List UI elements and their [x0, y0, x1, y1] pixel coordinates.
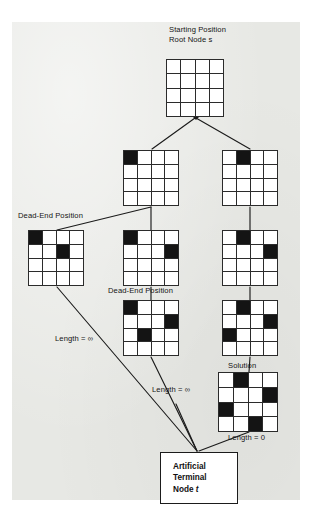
board-cell-empty [196, 89, 209, 102]
edge-label-length-infinity-left: Length = ∞ [55, 334, 93, 344]
board-cell-empty [251, 259, 264, 272]
board-cell-empty [124, 315, 137, 328]
board-cell-empty [70, 272, 83, 285]
board-cell-empty [263, 373, 277, 387]
board-cell-empty [138, 272, 151, 285]
board-cell-empty [167, 60, 180, 73]
board-cell-empty [29, 259, 42, 272]
board-cell-empty [251, 272, 264, 285]
board-cell-empty [165, 259, 178, 272]
board-cell-empty [237, 272, 250, 285]
edge-root-to-l2-right [196, 118, 250, 149]
board-cell-queen [249, 417, 263, 431]
board-cell-queen [264, 315, 277, 328]
board-cell-empty [264, 329, 277, 342]
board-cell-empty [138, 259, 151, 272]
board-cell-empty [219, 388, 233, 402]
board-cell-empty [251, 151, 264, 164]
board-cell-empty [165, 165, 178, 178]
board-cell-empty [167, 103, 180, 116]
board-cell-empty [237, 342, 250, 355]
board-cell-empty [264, 192, 277, 205]
board-cell-empty [165, 329, 178, 342]
board-cell-empty [237, 192, 250, 205]
board-cell-empty [138, 315, 151, 328]
board-cell-queen [264, 245, 277, 258]
board-cell-empty [223, 301, 236, 314]
board-cell-empty [237, 329, 250, 342]
board-cell-empty [264, 231, 277, 244]
board-cell-empty [167, 89, 180, 102]
board-cell-empty [152, 179, 165, 192]
root-board [166, 59, 224, 117]
board-cell-empty [251, 301, 264, 314]
board-cell-empty [124, 259, 137, 272]
board-cell-empty [223, 245, 236, 258]
board-cell-empty [152, 231, 165, 244]
board-cell-empty [152, 151, 165, 164]
board-cell-empty [237, 179, 250, 192]
board-cell-empty [124, 192, 137, 205]
board-cell-queen [219, 403, 233, 417]
board-cell-empty [165, 192, 178, 205]
board-cell-empty [251, 245, 264, 258]
board-cell-empty [237, 315, 250, 328]
board-cell-empty [152, 259, 165, 272]
board-cell-empty [264, 272, 277, 285]
board-cell-queen [29, 231, 42, 244]
board-cell-empty [223, 192, 236, 205]
board-cell-empty [223, 315, 236, 328]
board-cell-empty [29, 272, 42, 285]
board-cell-empty [152, 245, 165, 258]
root-node-symbol: s [208, 35, 212, 44]
board-cell-empty [223, 151, 236, 164]
board-cell-queen [237, 301, 250, 314]
board-cell-empty [181, 103, 194, 116]
level2-left-board [123, 150, 179, 206]
level3-middle-board [123, 230, 179, 286]
root-title-line2: Root Node s [169, 35, 212, 44]
board-cell-empty [152, 301, 165, 314]
board-cell-empty [138, 165, 151, 178]
board-cell-empty [181, 89, 194, 102]
dead-end-middle-label: Dead-End Position [108, 286, 173, 296]
board-cell-queen [165, 315, 178, 328]
board-cell-empty [223, 179, 236, 192]
board-cell-empty [210, 89, 223, 102]
board-cell-empty [29, 245, 42, 258]
level2-right-board [222, 150, 278, 206]
solution-board [218, 372, 278, 432]
board-cell-empty [196, 60, 209, 73]
board-cell-empty [196, 74, 209, 87]
board-cell-empty [219, 417, 233, 431]
board-cell-empty [138, 231, 151, 244]
board-cell-empty [43, 259, 56, 272]
board-cell-empty [264, 342, 277, 355]
board-cell-empty [70, 245, 83, 258]
solution-label: Solution [228, 361, 256, 371]
board-cell-empty [152, 192, 165, 205]
board-cell-empty [251, 179, 264, 192]
board-cell-empty [237, 245, 250, 258]
level3-right-board [222, 230, 278, 286]
board-cell-empty [181, 60, 194, 73]
board-cell-queen [234, 373, 248, 387]
board-cell-empty [223, 165, 236, 178]
board-cell-empty [57, 231, 70, 244]
board-cell-queen [223, 329, 236, 342]
board-cell-empty [251, 192, 264, 205]
board-cell-empty [152, 329, 165, 342]
board-cell-empty [138, 179, 151, 192]
terminal-line-2: Terminal [173, 472, 237, 484]
board-cell-empty [138, 245, 151, 258]
board-cell-queen [124, 301, 137, 314]
board-cell-queen [124, 231, 137, 244]
board-cell-empty [237, 259, 250, 272]
terminal-node-symbol: t [196, 485, 199, 494]
edge-label-length-infinity-middle: Length = ∞ [152, 385, 190, 395]
board-cell-empty [264, 179, 277, 192]
board-cell-empty [124, 179, 137, 192]
board-cell-empty [152, 342, 165, 355]
board-cell-empty [70, 259, 83, 272]
board-cell-empty [43, 272, 56, 285]
